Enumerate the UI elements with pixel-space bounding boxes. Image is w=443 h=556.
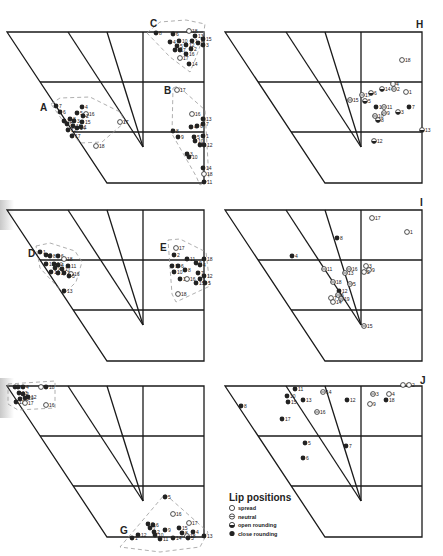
legend-item-label: neutral xyxy=(238,514,257,520)
point-label: 16 xyxy=(74,271,80,277)
vowel-point: 2 xyxy=(362,269,370,275)
legend-title: Lip positions xyxy=(229,492,292,503)
point-label: 4 xyxy=(295,253,298,259)
point-label: 3 xyxy=(376,391,379,397)
vowel-point: 7 xyxy=(407,104,415,110)
vowel-point: 8 xyxy=(48,253,56,259)
vowel-point: 14 xyxy=(380,86,391,92)
legend-item-neutral: neutral xyxy=(229,514,256,520)
point-label: 13 xyxy=(207,533,213,539)
point-label: 17 xyxy=(192,520,198,526)
quadrilateral-frame xyxy=(225,32,422,183)
vowel-point: 1 xyxy=(405,229,413,235)
vowel-point: 18 xyxy=(94,143,105,149)
vowel-point: 12 xyxy=(372,138,383,144)
point-label: 16 xyxy=(176,511,182,517)
point-label: 16 xyxy=(49,402,55,408)
point-label: 8 xyxy=(53,253,56,259)
point-label: 18 xyxy=(181,291,187,297)
point-label: 12 xyxy=(377,138,383,144)
point-label: 1 xyxy=(409,89,412,95)
panel-label-C: C xyxy=(150,18,157,29)
vowel-point: 17 xyxy=(178,55,189,61)
vowel-point: 17 xyxy=(280,416,291,422)
vowel-point: 11 xyxy=(202,179,213,185)
point-label: 18 xyxy=(207,171,213,177)
vowel-point: 14 xyxy=(331,299,342,305)
point-label: 17 xyxy=(375,215,381,221)
point-label: 17 xyxy=(75,133,81,139)
point-label: 18 xyxy=(207,256,213,262)
vowel-point: 5 xyxy=(203,280,211,286)
point-label: 8 xyxy=(340,235,343,241)
vowel-point: 9 xyxy=(176,134,184,140)
vowel-point: 13 xyxy=(343,270,354,276)
point-label: 2 xyxy=(177,252,180,258)
grid-line xyxy=(325,32,361,147)
point-label: 18 xyxy=(405,57,411,63)
point-label: 2 xyxy=(367,269,370,275)
point-label: 1 xyxy=(84,124,87,130)
vowel-point: 4 xyxy=(198,262,206,268)
point-label: 1 xyxy=(135,535,138,541)
panel-label-G: G xyxy=(120,525,128,536)
point-label: 7 xyxy=(59,103,62,109)
vowel-point: 5 xyxy=(363,98,371,104)
grid-line xyxy=(286,32,361,147)
panel-label-D: D xyxy=(28,248,35,259)
point-label: 17 xyxy=(28,400,34,406)
vowel-point: 18 xyxy=(202,171,213,177)
grid-line xyxy=(68,210,143,325)
vowel-point: 8 xyxy=(335,235,343,241)
vowel-chart-left-top: CAB1886131541019512311721617147416652810… xyxy=(7,18,213,185)
panel-label-A: A xyxy=(40,102,47,113)
vowel-point: 12 xyxy=(345,397,356,403)
vowel-point: 14 xyxy=(187,61,198,67)
quadrilateral-frame xyxy=(7,210,204,361)
vowel-point: 5 xyxy=(163,494,171,500)
point-label: 13 xyxy=(425,127,431,133)
point-label: 12 xyxy=(141,532,147,538)
point-label: 4 xyxy=(196,529,199,535)
vowel-point: 8 xyxy=(154,30,162,36)
vowel-point: 18 xyxy=(176,291,187,297)
vowel-point: 14 xyxy=(321,389,332,395)
vowel-point: 14 xyxy=(171,535,182,541)
point-label: 11 xyxy=(71,263,76,269)
point-label: 9 xyxy=(373,401,376,407)
vowel-point: 13 xyxy=(62,288,73,294)
point-label: 18 xyxy=(336,279,342,285)
vowel-point: 18 xyxy=(400,57,411,63)
vowel-point: 9 xyxy=(163,527,171,533)
vowel-point: 11 xyxy=(158,536,169,542)
point-label: 6 xyxy=(63,109,66,115)
point-label: 19 xyxy=(344,296,350,302)
vowel-point: 5 xyxy=(348,281,356,287)
vowel-chart-left-middle: DE13861812104119171427165131721118941461… xyxy=(7,210,213,361)
point-label: 14 xyxy=(385,86,391,92)
vowel-point: 1 xyxy=(130,535,138,541)
vowel-point: 3 xyxy=(396,109,404,115)
point-label: 17 xyxy=(123,119,129,125)
point-label: 18 xyxy=(67,256,73,262)
vowel-point: 6 xyxy=(369,90,377,96)
point-label: 4 xyxy=(85,104,88,110)
vowel-point: 3 xyxy=(201,42,209,48)
point-label: 5 xyxy=(353,281,356,287)
legend-item-close: close rounding xyxy=(229,531,277,537)
point-label: 1 xyxy=(410,229,413,235)
point-label: 5 xyxy=(72,273,75,279)
vowel-point: 11 xyxy=(293,386,304,392)
legend-item-label: open rounding xyxy=(238,522,277,528)
vowel-point: 18 xyxy=(384,397,395,403)
lip-positions-legend: Lip positions spreadneutralopen rounding… xyxy=(229,492,292,537)
vowel-point: 16 xyxy=(190,111,201,117)
vowel-point: 17 xyxy=(187,520,198,526)
point-label: 14 xyxy=(336,299,342,305)
point-label: 18 xyxy=(99,143,105,149)
point-label: 12 xyxy=(350,397,356,403)
point-label: 11 xyxy=(163,536,168,542)
point-label: 5 xyxy=(368,98,371,104)
vowel-point: 15 xyxy=(348,97,359,103)
point-label: 17 xyxy=(180,87,186,93)
